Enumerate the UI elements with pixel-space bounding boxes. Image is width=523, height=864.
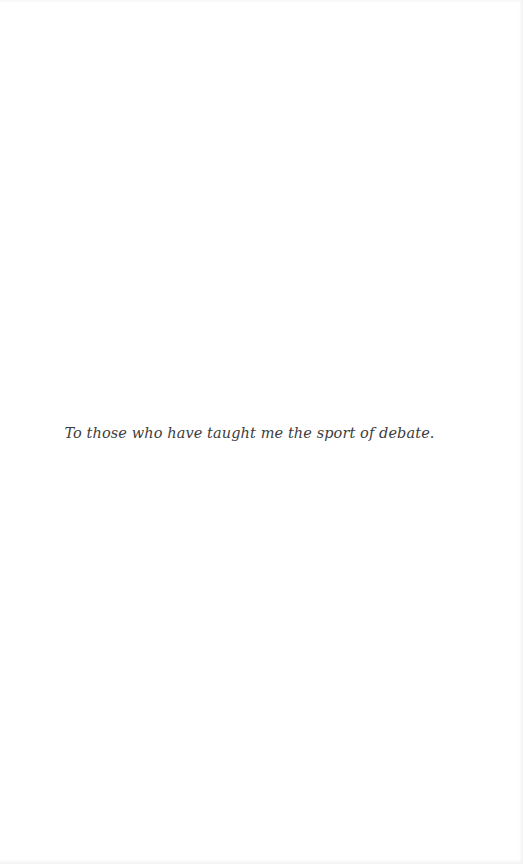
dedication-container: To those who have taught me the sport of… [0, 0, 523, 864]
dedication-text: To those who have taught me the sport of… [64, 424, 434, 443]
book-page: To those who have taught me the sport of… [0, 0, 523, 864]
